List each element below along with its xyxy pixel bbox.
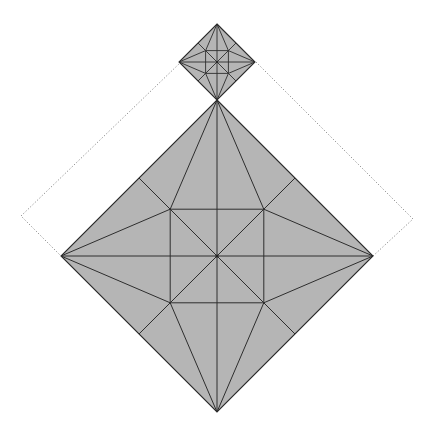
small-crease-diamond [179,24,255,100]
center-point [216,61,218,63]
crease-pattern-diagram [0,0,428,431]
large-crease-diamond [61,100,373,412]
center-point [215,254,218,257]
